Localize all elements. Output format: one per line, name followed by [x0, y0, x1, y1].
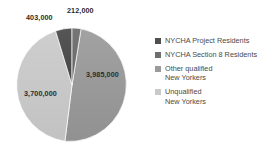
legend-label-line2: New Yorkers — [165, 73, 212, 82]
legend-item-nycha-project[interactable]: NYCHA Project Residents — [155, 36, 275, 45]
legend-label-line1: Unqualified — [165, 87, 202, 96]
legend-label: NYCHA Project Residents — [165, 36, 249, 45]
legend-label-line1: NYCHA Project Residents — [165, 36, 249, 45]
pie-svg — [0, 0, 145, 155]
legend-item-nycha-section8[interactable]: NYCHA Section 8 Residents — [155, 50, 275, 59]
chart-legend: NYCHA Project Residents NYCHA Section 8 … — [155, 36, 275, 110]
legend-label: Unqualified New Yorkers — [165, 87, 206, 106]
legend-swatch-icon — [155, 89, 161, 95]
legend-label-line1: NYCHA Section 8 Residents — [165, 50, 257, 59]
data-label-3700000: 3,700,000 — [24, 89, 57, 98]
legend-label-line2: New Yorkers — [165, 97, 206, 106]
legend-swatch-icon — [155, 66, 161, 72]
pie-chart-figure: 403,000 212,000 3,985,000 3,700,000 NYCH… — [0, 0, 275, 155]
legend-item-other-qualified[interactable]: Other qualified New Yorkers — [155, 64, 275, 83]
legend-label: NYCHA Section 8 Residents — [165, 50, 257, 59]
legend-label: Other qualified New Yorkers — [165, 64, 212, 83]
data-label-403000: 403,000 — [26, 13, 53, 22]
legend-item-unqualified[interactable]: Unqualified New Yorkers — [155, 87, 275, 106]
data-label-3985000: 3,985,000 — [86, 70, 119, 79]
pie-plot-area: 403,000 212,000 3,985,000 3,700,000 — [0, 0, 145, 155]
legend-swatch-icon — [155, 38, 161, 44]
legend-label-line1: Other qualified — [165, 64, 212, 73]
legend-swatch-icon — [155, 52, 161, 58]
data-label-212000: 212,000 — [67, 6, 94, 15]
